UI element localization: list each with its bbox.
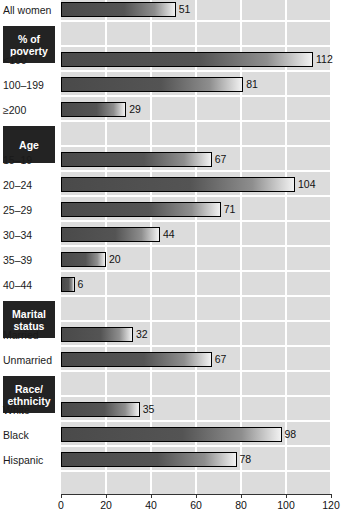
section-header-label: Maritalstatus <box>12 308 46 332</box>
bar-value-label: 104 <box>298 177 316 192</box>
x-axis-tick <box>106 494 107 498</box>
x-axis-tick-label: 80 <box>235 499 247 511</box>
gridline-horizontal <box>61 370 331 372</box>
gridline-horizontal <box>61 470 331 472</box>
bar <box>61 102 126 117</box>
bar-value-label: 51 <box>179 2 191 17</box>
bar <box>61 402 140 417</box>
bar <box>61 77 243 92</box>
bar-value-label: 81 <box>246 77 258 92</box>
row-label: 15–19 <box>3 155 32 166</box>
bar <box>61 2 176 17</box>
bar-value-label: 6 <box>78 277 84 292</box>
row-label: Black <box>3 430 29 441</box>
x-axis-tick-label: 100 <box>277 499 295 511</box>
gridline-horizontal <box>61 420 331 422</box>
gridline-horizontal <box>61 395 331 397</box>
x-axis-tick <box>61 494 62 498</box>
bar-value-label: 32 <box>136 327 148 342</box>
row-label: 35–39 <box>3 255 32 266</box>
bar-value-label: 44 <box>163 227 175 242</box>
x-axis-tick-label: 0 <box>58 499 64 511</box>
section-header-label: Age <box>19 139 39 151</box>
row-label: ≥200 <box>3 105 26 116</box>
gridline-horizontal <box>61 170 331 172</box>
bar <box>61 227 160 242</box>
bar-value-label: 71 <box>224 202 236 217</box>
gridline-horizontal <box>61 220 331 222</box>
x-axis-tick <box>286 494 287 498</box>
row-label: White <box>3 405 30 416</box>
bar <box>61 327 133 342</box>
gridline-horizontal <box>61 70 331 72</box>
x-axis-tick <box>331 494 332 498</box>
bar-value-label: 29 <box>129 102 141 117</box>
gridline-horizontal <box>61 20 331 22</box>
row-label: All women <box>3 5 51 16</box>
bar <box>61 152 212 167</box>
bar <box>61 52 313 67</box>
bar <box>61 252 106 267</box>
gridline-horizontal <box>61 295 331 297</box>
x-axis-tick <box>151 494 152 498</box>
section-header-label: % ofpoverty <box>10 33 48 57</box>
x-axis-tick <box>241 494 242 498</box>
bar <box>61 202 221 217</box>
row-label: 25–29 <box>3 205 32 216</box>
row-label: 20–24 <box>3 180 32 191</box>
bar-value-label: 78 <box>240 452 252 467</box>
gridline-horizontal <box>61 145 331 147</box>
bar <box>61 352 212 367</box>
bar-value-label: 20 <box>109 252 121 267</box>
bar <box>61 177 295 192</box>
row-label: Married <box>3 330 39 341</box>
bar <box>61 277 75 292</box>
x-axis-tick-label: 60 <box>190 499 202 511</box>
bar-value-label: 112 <box>316 52 333 67</box>
gridline-horizontal <box>61 45 331 47</box>
x-axis-tick-label: 120 <box>322 499 340 511</box>
x-axis-tick <box>196 494 197 498</box>
row-label: Unmarried <box>3 355 52 366</box>
row-label: 100–199 <box>3 80 44 91</box>
row-label: 40–44 <box>3 280 32 291</box>
row-label: <100 <box>3 55 27 66</box>
gridline-horizontal <box>61 195 331 197</box>
x-axis-tick-label: 20 <box>100 499 112 511</box>
row-label: 30–34 <box>3 230 32 241</box>
bar-value-label: 98 <box>285 427 297 442</box>
row-label: Hispanic <box>3 455 43 466</box>
bar-value-label: 67 <box>215 352 227 367</box>
gridline-horizontal <box>61 245 331 247</box>
bar-value-label: 35 <box>143 402 155 417</box>
gridline-horizontal <box>61 445 331 447</box>
gridline-horizontal <box>61 320 331 322</box>
bar-value-label: 67 <box>215 152 227 167</box>
bar-chart: All women51% ofpoverty<100112100–19981≥2… <box>0 0 341 516</box>
gridline-horizontal <box>61 95 331 97</box>
x-axis-tick-label: 40 <box>145 499 157 511</box>
gridline-horizontal <box>61 120 331 122</box>
gridline-horizontal <box>61 270 331 272</box>
gridline-horizontal <box>61 345 331 347</box>
bar <box>61 427 282 442</box>
section-header-label: Race/ethnicity <box>7 383 50 407</box>
bar <box>61 452 237 467</box>
